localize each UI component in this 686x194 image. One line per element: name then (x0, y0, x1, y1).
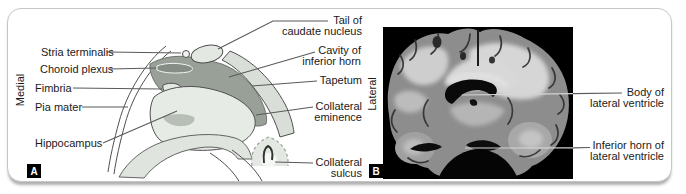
label-fimbria: Fimbria (35, 83, 72, 94)
label-inferior-horn-of-lateral-ventricle: Inferior horn of lateral ventricle (590, 140, 664, 162)
panel-a-badge: A (27, 164, 41, 178)
label-stria-terminalis: Stria terminalis (41, 47, 114, 58)
label-choroid-plexus: Choroid plexus (40, 64, 113, 75)
panel-b-badge: B (369, 164, 383, 178)
choroid-plexus-shape (157, 63, 192, 73)
label-pia-mater: Pia mater (35, 102, 82, 113)
label-hippocampus: Hippocampus (35, 138, 102, 149)
panel-a-drawing (108, 42, 294, 182)
anatomy-figure: Stria terminalis Choroid plexus Fimbria … (0, 0, 686, 194)
lateral-orientation-label: Lateral (367, 77, 378, 111)
medial-orientation-label: Medial (15, 74, 26, 106)
label-cavity-of-inferior-horn: Cavity of inferior horn (302, 45, 361, 67)
label-tapetum: Tapetum (320, 75, 362, 86)
label-collateral-sulcus: Collateral sulcus (316, 157, 362, 179)
panel-b-photo (383, 27, 573, 179)
stria-terminalis-shape (183, 51, 190, 58)
label-collateral-eminence: Collateral eminence (314, 101, 362, 123)
label-body-of-lateral-ventricle: Body of lateral ventricle (590, 87, 664, 109)
label-tail-of-caudate-nucleus: Tail of caudate nucleus (282, 15, 362, 37)
